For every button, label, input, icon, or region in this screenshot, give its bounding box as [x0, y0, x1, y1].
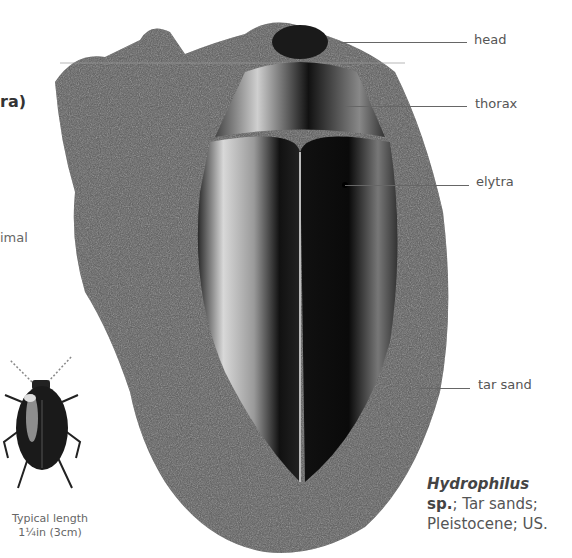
body-text-fragment: imal — [0, 230, 28, 245]
caption-age-country: Pleistocene; US. — [427, 514, 572, 534]
typical-length-label: Typical length — [0, 512, 100, 526]
typical-length-value: 1¼in (3cm) — [0, 526, 100, 540]
fossil-rock-image — [45, 12, 455, 558]
tar-sand-leader-line — [420, 388, 470, 389]
water-beetle-icon — [0, 340, 90, 500]
caption-species: sp. — [427, 495, 452, 513]
fossil-specimen-photo — [45, 12, 455, 558]
beetle-illustration — [0, 340, 90, 500]
label-elytra: elytra — [476, 174, 514, 189]
elytra-leader-line — [345, 185, 469, 186]
specimen-caption: Hydrophilus sp.; Tar sands; Pleistocene;… — [427, 474, 572, 534]
head-leader-line — [340, 42, 467, 43]
thorax-leader-line — [345, 106, 467, 107]
caption-genus: Hydrophilus — [427, 475, 529, 493]
label-head: head — [474, 32, 506, 47]
label-tar-sand: tar sand — [478, 377, 532, 392]
heading-fragment: ra) — [0, 92, 26, 111]
label-thorax: thorax — [475, 96, 517, 111]
caption-locality: ; Tar sands; — [452, 495, 538, 513]
beetle-head — [272, 25, 328, 59]
